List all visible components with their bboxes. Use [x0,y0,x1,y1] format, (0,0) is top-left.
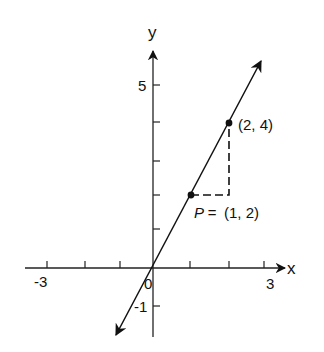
x-axis-label: x [287,259,296,278]
y-ticks [153,85,160,306]
x-tick-label-3: 3 [266,275,274,292]
x-tick-label-neg3: -3 [34,273,47,290]
origin-label: 0 [144,275,152,292]
point-label-p-prefix: P = [194,204,217,221]
point-label-1-2: (1, 2) [224,204,259,221]
chart: -3 3 0 5 -1 x y (2, 4) P = (1, 2) [0,0,324,352]
y-tick-label-neg1: -1 [134,298,147,315]
line-y-equals-2x [116,61,261,335]
point-p-1-2 [188,192,195,199]
y-tick-label-5: 5 [138,77,146,94]
y-axis-label: y [148,23,157,42]
point-2-4 [226,120,233,127]
x-ticks [47,261,264,268]
point-label-2-4: (2, 4) [238,116,273,133]
